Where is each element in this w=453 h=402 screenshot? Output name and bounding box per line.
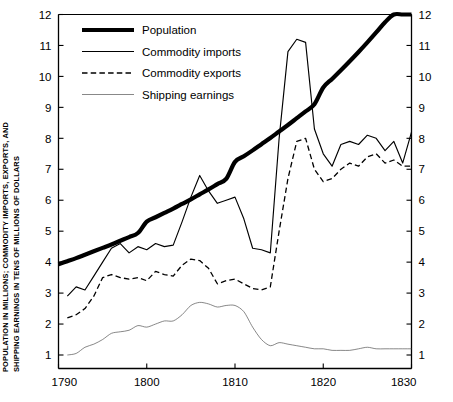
y-tick-label-right: 8 bbox=[419, 133, 425, 145]
y-tick-label-left: 8 bbox=[45, 133, 51, 145]
y-tick-label-left: 11 bbox=[40, 40, 52, 52]
y-tick-label-right: 1 bbox=[419, 349, 425, 361]
y-axis-label-line-1: POPULATION IN MILLIONS; COMMODITY IMPORT… bbox=[0, 122, 12, 372]
y-tick-label-right: 7 bbox=[419, 163, 425, 175]
y-tick-label-left: 12 bbox=[39, 9, 52, 21]
x-tick-label: 1790 bbox=[52, 376, 78, 388]
y-tick-label-left: 4 bbox=[45, 256, 52, 268]
y-tick-label-right: 10 bbox=[419, 71, 432, 83]
chart-legend: PopulationCommodity importsCommodity exp… bbox=[82, 24, 241, 101]
y-tick-label-left: 3 bbox=[45, 287, 51, 299]
y-tick-label-right: 5 bbox=[419, 225, 425, 237]
chart-figure: POPULATION IN MILLIONS; COMMODITY IMPORT… bbox=[0, 0, 453, 402]
y-tick-label-right: 4 bbox=[419, 256, 426, 268]
series-line-shipping-earnings bbox=[67, 302, 411, 355]
legend-label-shipping-earnings: Shipping earnings bbox=[142, 89, 234, 101]
chart-plot-area: 1122334455667788991010111112121790180018… bbox=[0, 0, 453, 402]
x-tick-label: 1800 bbox=[134, 376, 160, 388]
y-tick-label-left: 2 bbox=[45, 318, 51, 330]
y-tick-label-right: 9 bbox=[419, 102, 425, 114]
y-tick-label-right: 2 bbox=[419, 318, 425, 330]
x-tick-label: 1810 bbox=[222, 376, 248, 388]
y-tick-label-right: 6 bbox=[419, 194, 425, 206]
y-tick-label-right: 11 bbox=[419, 40, 431, 52]
legend-label-commodity-exports: Commodity exports bbox=[142, 67, 241, 79]
y-tick-label-left: 1 bbox=[45, 349, 51, 361]
x-tick-label: 1830 bbox=[391, 376, 417, 388]
legend-label-population: Population bbox=[142, 24, 196, 36]
y-axis-label: POPULATION IN MILLIONS; COMMODITY IMPORT… bbox=[0, 0, 40, 372]
data-series-group bbox=[59, 14, 412, 355]
x-tick-label: 1820 bbox=[310, 376, 336, 388]
y-tick-label-left: 10 bbox=[39, 71, 52, 83]
y-tick-label-left: 6 bbox=[45, 194, 51, 206]
legend-label-commodity-imports: Commodity imports bbox=[142, 46, 241, 58]
y-tick-label-left: 5 bbox=[45, 225, 51, 237]
y-tick-label-left: 7 bbox=[45, 163, 51, 175]
y-tick-label-right: 3 bbox=[419, 287, 425, 299]
y-axis-label-line-2: SHIPPING EARNINGS IN TENS OF MILLIONS OF… bbox=[11, 156, 23, 372]
y-tick-label-left: 9 bbox=[45, 102, 51, 114]
series-line-commodity-exports bbox=[67, 138, 411, 318]
y-tick-label-right: 12 bbox=[419, 9, 432, 21]
